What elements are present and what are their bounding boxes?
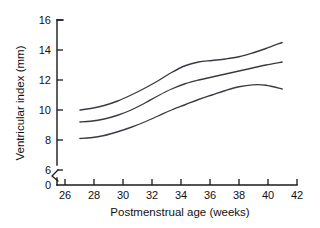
y-axis-title: Ventricular index (mm): [14, 45, 26, 160]
x-tick-label-30: 30: [117, 189, 129, 201]
y-tick-label-0: 0: [45, 179, 51, 191]
x-tick-label-42: 42: [291, 189, 303, 201]
x-tick-label-40: 40: [262, 189, 274, 201]
curve-lower-centile: [80, 85, 282, 139]
y-tick-label-6: 6: [45, 164, 51, 176]
x-tick-label-38: 38: [233, 189, 245, 201]
x-tick-label-28: 28: [88, 189, 100, 201]
curve-upper-centile: [80, 43, 282, 111]
data-curves: [80, 43, 282, 139]
chart-figure: 16 14 12 10 8 6 0 26 28 30 32 34 36 38 4…: [0, 0, 320, 228]
curve-median: [80, 62, 282, 122]
y-tick-label-8: 8: [45, 134, 51, 146]
x-tick-label-36: 36: [204, 189, 216, 201]
ventricular-index-chart: 16 14 12 10 8 6 0 26 28 30 32 34 36 38 4…: [0, 0, 320, 228]
x-tick-label-32: 32: [146, 189, 158, 201]
y-tick-label-16: 16: [39, 14, 51, 26]
x-tick-label-34: 34: [175, 189, 187, 201]
x-tick-label-26: 26: [59, 189, 71, 201]
y-tick-label-14: 14: [39, 44, 51, 56]
y-tick-marks: [57, 20, 63, 170]
x-axis-title: Postmenstrual age (weeks): [110, 206, 250, 218]
y-tick-label-10: 10: [39, 104, 51, 116]
y-tick-label-12: 12: [39, 74, 51, 86]
x-tick-marks: [65, 179, 297, 185]
